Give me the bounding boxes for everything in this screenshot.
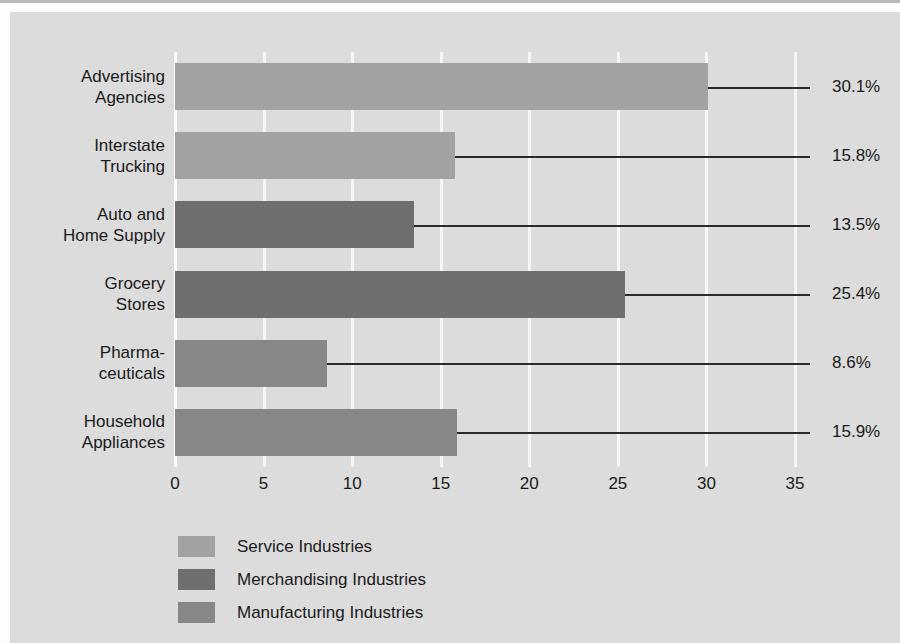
legend-swatch-icon — [178, 536, 215, 557]
x-tick-label: 5 — [259, 474, 268, 494]
value-label: 8.6% — [832, 353, 871, 373]
x-tick-label: 0 — [170, 474, 179, 494]
x-tick-label: 25 — [608, 474, 627, 494]
x-tick-label: 30 — [697, 474, 716, 494]
gridline-0 — [174, 52, 177, 467]
chart-legend: Service IndustriesMerchandising Industri… — [178, 530, 426, 629]
x-axis-tick-labels: 05101520253035 — [175, 474, 795, 500]
gridline-20 — [528, 52, 531, 467]
category-label: Auto and Home Supply — [15, 204, 165, 246]
plot-area — [175, 52, 795, 467]
gridline-35 — [794, 52, 797, 467]
value-label: 30.1% — [832, 77, 880, 97]
value-label: 15.9% — [832, 422, 880, 442]
value-label: 13.5% — [832, 215, 880, 235]
x-tick-label: 15 — [431, 474, 450, 494]
legend-swatch-icon — [178, 602, 215, 623]
bar-chart-figure: Advertising AgenciesInterstate TruckingA… — [0, 0, 900, 643]
legend-item: Manufacturing Industries — [178, 596, 426, 629]
value-label: 15.8% — [832, 146, 880, 166]
gridline-10 — [351, 52, 354, 467]
leader-line — [414, 225, 810, 227]
leader-line — [457, 432, 810, 434]
leader-line — [327, 363, 810, 365]
legend-swatch-icon — [178, 569, 215, 590]
x-tick-label: 20 — [520, 474, 539, 494]
bar — [175, 63, 708, 110]
category-label: Interstate Trucking — [15, 135, 165, 177]
gridline-25 — [617, 52, 620, 467]
legend-label: Manufacturing Industries — [237, 603, 423, 623]
legend-label: Service Industries — [237, 537, 372, 557]
bar — [175, 201, 414, 248]
bar — [175, 409, 457, 456]
category-label: Household Appliances — [15, 411, 165, 453]
x-tick-label: 10 — [343, 474, 362, 494]
page-top-rule — [0, 0, 900, 3]
bar — [175, 271, 625, 318]
leader-line — [455, 156, 810, 158]
category-label: Advertising Agencies — [15, 66, 165, 108]
category-axis-labels: Advertising AgenciesInterstate TruckingA… — [10, 52, 165, 467]
category-label: Grocery Stores — [15, 273, 165, 315]
value-label: 25.4% — [832, 284, 880, 304]
gridline-30 — [705, 52, 708, 467]
legend-item: Merchandising Industries — [178, 563, 426, 596]
bar — [175, 132, 455, 179]
gridline-15 — [440, 52, 443, 467]
leader-line — [625, 294, 810, 296]
gridline-5 — [263, 52, 266, 467]
x-tick-label: 35 — [786, 474, 805, 494]
leader-line — [708, 87, 810, 89]
category-label: Pharma- ceuticals — [15, 342, 165, 384]
legend-label: Merchandising Industries — [237, 570, 426, 590]
bar — [175, 340, 327, 387]
chart-panel: Advertising AgenciesInterstate TruckingA… — [10, 12, 900, 643]
legend-item: Service Industries — [178, 530, 426, 563]
